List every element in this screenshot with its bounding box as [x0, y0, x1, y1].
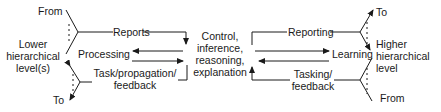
- right-from-fork: [334, 58, 372, 101]
- right-to-label: To: [376, 6, 387, 18]
- center-line3: reasoning,: [190, 54, 250, 66]
- tasking-line1: Tasking/: [288, 68, 338, 80]
- higher-level-line3: level: [376, 62, 430, 74]
- left-from-label: From: [38, 5, 63, 17]
- left-to-label: To: [53, 94, 64, 106]
- tasking-line2: feedback: [288, 80, 338, 92]
- tasking-feedback-bracket: [252, 67, 290, 80]
- right-to-fork: [330, 10, 373, 50]
- higher-level-label: Higher hierarchical level: [376, 38, 430, 74]
- lower-level-label: Lower hierarchical level(s): [2, 38, 64, 74]
- lower-level-line3: level(s): [2, 62, 64, 74]
- center-line2: inference,: [190, 42, 250, 54]
- reports-label: Reports: [113, 26, 150, 38]
- tasking-feedback-label: Tasking/ feedback: [288, 68, 338, 92]
- learning-label: Learning: [332, 48, 373, 60]
- right-from-label: From: [380, 92, 405, 104]
- lower-level-line2: hierarchical: [2, 50, 64, 62]
- higher-level-line2: hierarchical: [376, 50, 430, 62]
- hierarchical-control-diagram: From Lower hierarchical level(s) To Repo…: [0, 0, 441, 112]
- reporting-label: Reporting: [288, 26, 334, 38]
- higher-level-line1: Higher: [376, 38, 430, 50]
- center-line4: explanation: [190, 66, 250, 78]
- task-line2: feedback: [90, 79, 180, 91]
- center-line1: Control,: [190, 30, 250, 42]
- reporting-bracket: [252, 32, 287, 45]
- processing-label: Processing: [78, 48, 130, 60]
- center-control-label: Control, inference, reasoning, explanati…: [190, 30, 250, 78]
- left-to-fork: [70, 66, 92, 100]
- task-line1: Task/propagation/: [90, 67, 180, 79]
- lower-level-line1: Lower: [2, 38, 64, 50]
- task-propagation-label: Task/propagation/ feedback: [90, 67, 180, 91]
